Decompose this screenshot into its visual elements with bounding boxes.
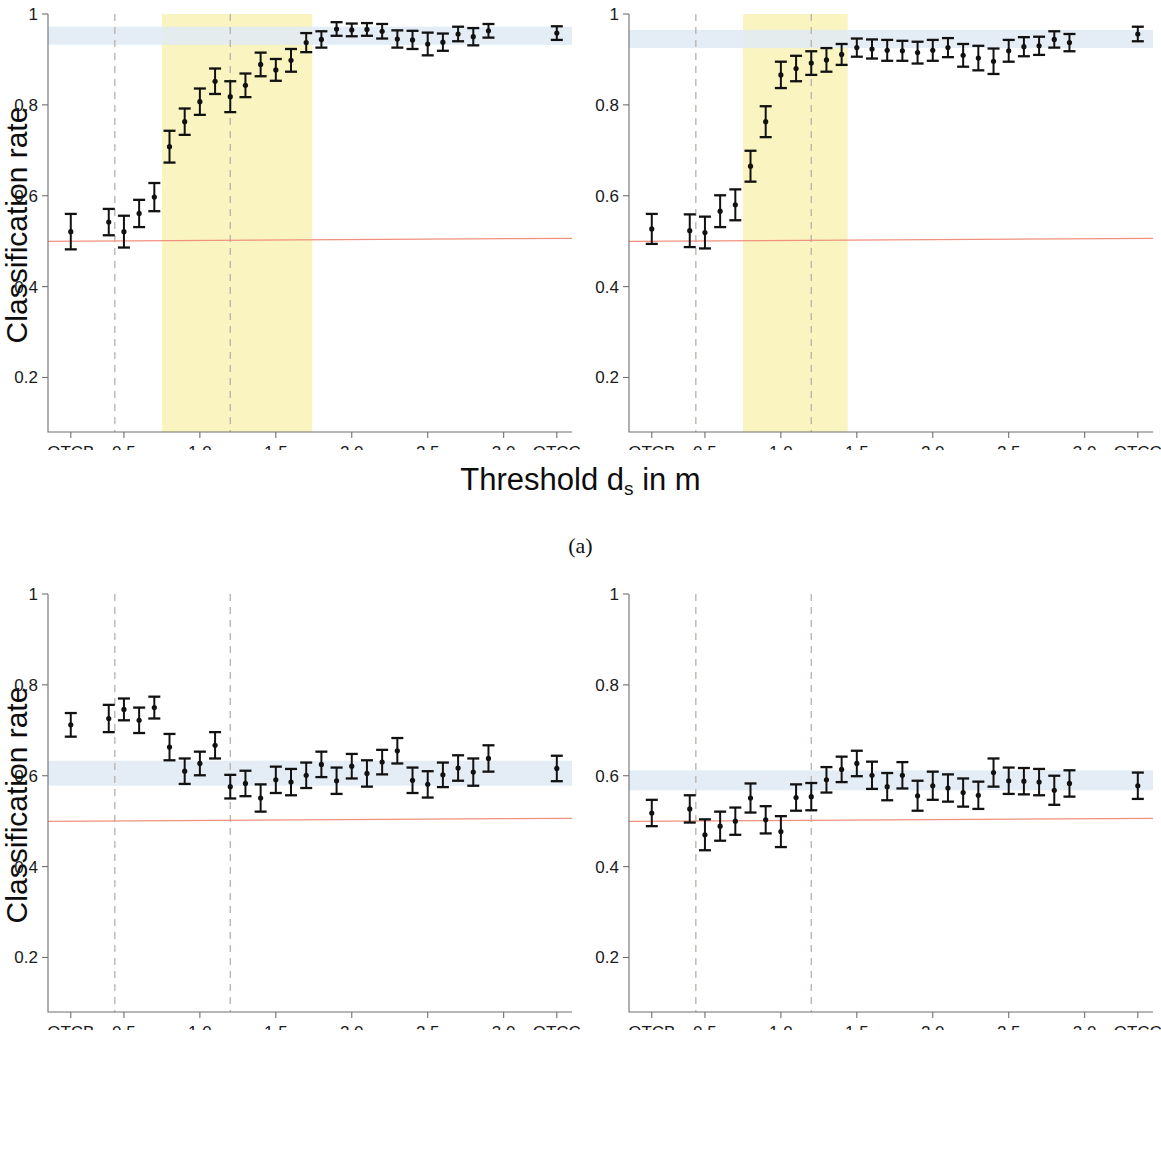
data-point-marker xyxy=(976,55,981,60)
x-tick-label-1: 0.5 xyxy=(112,443,136,450)
data-point-marker xyxy=(718,209,723,214)
data-point-marker xyxy=(440,40,445,45)
data-point-marker xyxy=(471,34,476,39)
data-point-marker xyxy=(455,31,460,36)
data-point-marker xyxy=(410,778,415,783)
data-point-marker xyxy=(364,771,369,776)
data-point-3 xyxy=(133,708,145,733)
data-point-marker xyxy=(687,228,692,233)
data-point-marker xyxy=(733,202,738,207)
data-point-2 xyxy=(118,699,130,721)
data-point-2 xyxy=(118,216,130,248)
panel-row-b: Classification rate 0.20.40.60.81QTCB0.5… xyxy=(0,580,1161,1030)
y-tick-label-2: 0.6 xyxy=(14,767,38,786)
data-point-marker xyxy=(304,40,309,45)
data-point-marker xyxy=(288,58,293,63)
data-point-marker xyxy=(1036,43,1041,48)
data-point-marker xyxy=(1006,48,1011,53)
highlight-span-yellow xyxy=(162,14,312,432)
reference-band-blue xyxy=(48,27,572,45)
x-tick-label-6: 3.0 xyxy=(492,443,516,450)
data-point-0 xyxy=(65,713,77,737)
data-point-marker xyxy=(304,773,309,778)
data-point-marker xyxy=(809,794,814,799)
data-point-marker xyxy=(395,748,400,753)
x-tick-label-3: 1.5 xyxy=(845,1023,869,1030)
data-point-marker xyxy=(900,48,905,53)
y-tick-label-0: 0.2 xyxy=(595,948,619,967)
y-tick-label-4: 1 xyxy=(610,585,619,604)
figure-root: Classification rate 0.20.40.60.81QTCB0.5… xyxy=(0,0,1161,1155)
data-point-marker xyxy=(748,164,753,169)
data-point-marker xyxy=(991,59,996,64)
data-point-1 xyxy=(103,705,115,732)
data-point-marker xyxy=(319,762,324,767)
plot-area-b-left: 0.20.40.60.81QTCB0.51.01.52.02.53.0QTCC xyxy=(0,580,580,1030)
chart-panel-b-left: 0.20.40.60.81QTCB0.51.01.52.02.53.0QTCC xyxy=(0,580,580,1030)
x-tick-label-4: 2.0 xyxy=(921,1023,945,1030)
data-series-error-bars xyxy=(65,697,563,812)
data-point-marker xyxy=(945,785,950,790)
y-tick-label-1: 0.4 xyxy=(14,278,38,297)
data-point-8 xyxy=(209,732,221,758)
data-point-marker xyxy=(961,53,966,58)
data-point-marker xyxy=(930,783,935,788)
data-point-1 xyxy=(684,795,696,822)
data-point-marker xyxy=(885,784,890,789)
data-point-marker xyxy=(228,784,233,789)
data-point-marker xyxy=(869,773,874,778)
axis-lines xyxy=(48,594,572,1012)
data-point-marker xyxy=(961,790,966,795)
subfigure-b: Classification rate 0.20.40.60.81QTCB0.5… xyxy=(0,580,1161,1155)
x-tick-label-6: 3.0 xyxy=(492,1023,516,1030)
y-tick-label-0: 0.2 xyxy=(14,948,38,967)
data-point-marker xyxy=(839,767,844,772)
data-point-marker xyxy=(930,48,935,53)
x-tick-label-1: 0.5 xyxy=(112,1023,136,1030)
x-tick-label-0: QTCB xyxy=(47,443,94,450)
data-point-marker xyxy=(258,795,263,800)
data-point-1 xyxy=(103,209,115,235)
data-point-marker xyxy=(687,806,692,811)
chance-level-line xyxy=(629,238,1153,241)
data-point-marker xyxy=(167,745,172,750)
x-axis-label-a-sub: s xyxy=(624,478,634,499)
data-point-marker xyxy=(197,761,202,766)
data-point-marker xyxy=(809,60,814,65)
x-tick-label-1: 0.5 xyxy=(693,1023,717,1030)
x-tick-label-7: QTCC xyxy=(533,443,580,450)
data-point-marker xyxy=(243,781,248,786)
data-point-marker xyxy=(425,782,430,787)
plot-area-a-right: 0.20.40.60.81QTCB0.51.01.52.02.53.0QTCC xyxy=(581,0,1161,450)
data-point-marker xyxy=(1021,779,1026,784)
x-tick-label-5: 2.5 xyxy=(997,1023,1021,1030)
data-point-marker xyxy=(410,37,415,42)
data-point-marker xyxy=(152,705,157,710)
reference-band-blue xyxy=(48,761,572,786)
y-tick-label-2: 0.6 xyxy=(14,187,38,206)
y-tick-label-2: 0.6 xyxy=(595,767,619,786)
data-point-marker xyxy=(778,829,783,834)
x-tick-label-0: QTCB xyxy=(628,443,675,450)
plot-area-a-left: 0.20.40.60.81QTCB0.51.01.52.02.53.0QTCC xyxy=(0,0,580,450)
data-point-marker xyxy=(167,144,172,149)
data-point-marker xyxy=(349,764,354,769)
plot-area-b-right: 0.20.40.60.81QTCB0.51.01.52.02.53.0QTCC xyxy=(581,580,1161,1030)
data-point-marker xyxy=(212,79,217,84)
x-tick-label-4: 2.0 xyxy=(340,443,364,450)
data-point-marker xyxy=(273,67,278,72)
data-point-marker xyxy=(554,30,559,35)
panel-row-a: Classification rate 0.20.40.60.81QTCB0.5… xyxy=(0,0,1161,450)
data-point-marker xyxy=(182,769,187,774)
data-point-marker xyxy=(455,765,460,770)
data-point-4 xyxy=(148,183,160,211)
y-tick-label-1: 0.4 xyxy=(595,858,619,877)
x-tick-label-7: QTCC xyxy=(533,1023,580,1030)
data-point-marker xyxy=(334,778,339,783)
data-point-marker xyxy=(554,766,559,771)
y-tick-label-3: 0.8 xyxy=(595,676,619,695)
data-point-0 xyxy=(646,800,658,826)
data-point-0 xyxy=(65,214,77,249)
data-point-marker xyxy=(702,230,707,235)
data-point-marker xyxy=(733,819,738,824)
